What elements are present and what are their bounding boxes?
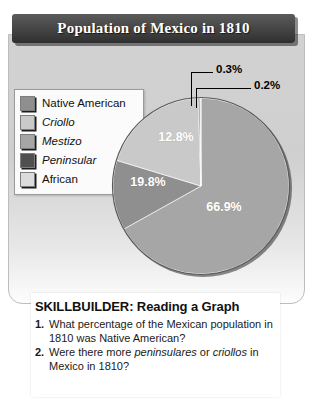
leader-line-peninsular-horiz [191, 72, 213, 73]
legend-item-label: African [42, 174, 78, 186]
legend-swatch-icon [20, 96, 35, 111]
chart-title-bar: Population of Mexico in 1810 [12, 14, 295, 43]
question-text: Were there more peninsulares or criollos… [49, 346, 280, 373]
figure-root: Population of Mexico in 1810 Native Amer… [0, 0, 311, 419]
legend-item-label: Mestizo [42, 136, 82, 148]
skillbuilder-question: 2.Were there more peninsulares or crioll… [31, 346, 280, 373]
callout-african: 0.2% [254, 79, 280, 91]
legend-swatch-icon [20, 115, 35, 130]
question-term-italic: criollos [213, 346, 247, 358]
callout-peninsular: 0.3% [216, 63, 242, 75]
legend-item-label: Criollo [42, 117, 75, 129]
skillbuilder-heading: SKILLBUILDER: Reading a Graph [31, 293, 280, 318]
question-text-run: or [197, 346, 213, 358]
question-text-run: Were there more [49, 346, 134, 358]
skillbuilder-question: 1.What percentage of the Mexican populat… [31, 318, 280, 345]
leader-line-african-horiz [196, 88, 251, 89]
page-title: Population of Mexico in 1810 [57, 20, 249, 37]
legend-swatch-icon [20, 172, 35, 187]
pie-label-0: 66.9% [206, 200, 241, 214]
question-term-italic: peninsulares [134, 346, 196, 358]
pie-label-1: 12.8% [158, 130, 193, 144]
skillbuilder-card: SKILLBUILDER: Reading a Graph 1.What per… [31, 293, 280, 397]
question-number: 2. [35, 346, 49, 373]
question-number: 1. [35, 318, 49, 345]
legend-item-label: Peninsular [42, 155, 96, 167]
leader-line-african-vert [196, 88, 197, 108]
question-text: What percentage of the Mexican populatio… [49, 318, 280, 345]
question-text-run: What percentage of the Mexican populatio… [49, 318, 273, 344]
skillbuilder-questions: 1.What percentage of the Mexican populat… [31, 318, 280, 373]
legend-swatch-icon [20, 134, 35, 149]
leader-line-peninsular-vert [191, 72, 192, 106]
pie-svg: 66.9%12.8%19.8% [104, 88, 300, 284]
pie-chart: 66.9%12.8%19.8% [104, 88, 300, 284]
pie-label-2: 19.8% [130, 175, 165, 189]
legend-swatch-icon [20, 153, 35, 168]
